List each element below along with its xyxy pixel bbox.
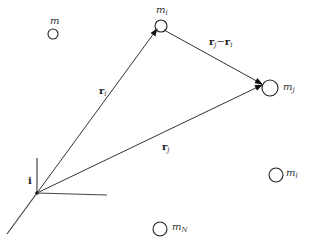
coordinate-axes: i xyxy=(7,158,107,234)
vector-r-j-minus-r-i-label: rj−ri xyxy=(209,36,232,49)
mass-system-diagram: i ri rj rj−ri m mi mj xyxy=(0,0,309,248)
unit-vector-label: i xyxy=(28,175,32,186)
mass-m-N-circle xyxy=(153,222,167,236)
mass-m-i-label: mi xyxy=(156,4,168,17)
mass-m-N: mN xyxy=(153,221,188,236)
mass-m-j-label: mj xyxy=(283,81,295,94)
mass-m-N-label: mN xyxy=(172,221,188,234)
axis-depth xyxy=(7,193,37,234)
mass-m-i-circle xyxy=(155,20,167,32)
mass-m-circle xyxy=(48,29,58,39)
mass-m-j-circle xyxy=(262,80,278,96)
vector-r-j-line xyxy=(37,85,262,193)
mass-m: m xyxy=(48,15,59,39)
mass-m-l: ml xyxy=(269,167,298,182)
vector-r-i-label: ri xyxy=(99,85,107,98)
mass-m-label: m xyxy=(50,15,59,26)
vector-r-j-label: rj xyxy=(162,141,170,154)
mass-m-l-label: ml xyxy=(286,167,298,180)
mass-m-l-circle xyxy=(269,168,283,182)
vector-r-i-line xyxy=(37,29,157,193)
vector-r-j-minus-r-i: rj−ri xyxy=(164,30,262,84)
vector-r-j: rj xyxy=(37,85,262,193)
mass-m-j: mj xyxy=(262,80,295,96)
axis-horizontal xyxy=(37,193,107,195)
vector-r-i: ri xyxy=(37,29,157,193)
mass-m-i: mi xyxy=(155,4,168,32)
diagram-canvas: i ri rj rj−ri m mi mj xyxy=(0,0,309,248)
